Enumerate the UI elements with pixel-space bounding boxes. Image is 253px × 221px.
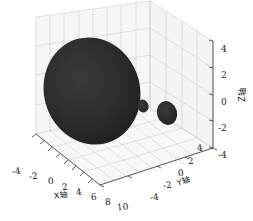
z-tick-label: 4 bbox=[221, 45, 227, 54]
x-tick-label: 10 bbox=[117, 202, 129, 212]
y-tick-label: -4 bbox=[150, 193, 160, 203]
z-axis-title: Z轴 bbox=[239, 88, 247, 101]
y-tick-label: 4 bbox=[197, 144, 204, 154]
x-tick-label: 0 bbox=[48, 177, 55, 187]
axes3d-canvas bbox=[0, 0, 253, 221]
x-tick-label: 8 bbox=[105, 198, 112, 208]
x-tick-label: -2 bbox=[29, 172, 39, 182]
z-tick-label: 0 bbox=[221, 98, 227, 107]
figure-3d-scatter: -4 -2 0 2 4 6 8 10 4 2 0 -2 -4 4 2 0 -2 … bbox=[0, 0, 253, 221]
x-tick-label: 6 bbox=[91, 193, 98, 203]
z-tick-label: 2 bbox=[221, 71, 227, 80]
x-axis-title: X轴 bbox=[54, 191, 68, 201]
z-tick-label: -2 bbox=[218, 124, 227, 133]
x-tick-label: -4 bbox=[12, 167, 22, 177]
x-tick-label: 4 bbox=[76, 188, 83, 198]
y-tick-label: 2 bbox=[188, 157, 195, 167]
y-tick-label: -2 bbox=[163, 181, 173, 191]
z-tick-label: -4 bbox=[218, 151, 227, 160]
